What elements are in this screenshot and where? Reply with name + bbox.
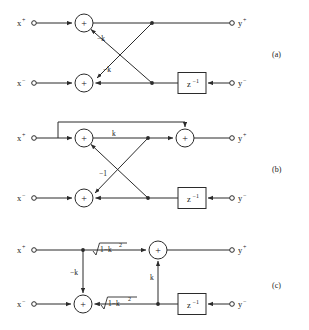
label-y-plus-sup-c: + xyxy=(243,244,247,250)
delay-block-c-superscript: −1 xyxy=(193,299,199,305)
adder-top-right-b-symbol: + xyxy=(182,133,188,144)
adder-bottom-a-symbol: + xyxy=(81,78,87,89)
label-y-minus-sup-c: − xyxy=(243,298,247,304)
panel-a: + + −k −k z −1 x + xyxy=(17,14,281,94)
diagram-canvas: + + −k −k z −1 x + xyxy=(0,0,309,330)
adder-bottom-c-symbol: + xyxy=(80,299,86,310)
coef-lower-cross-a: −k xyxy=(103,65,111,74)
coef-bottom-sqrt-c-exponent: 2 xyxy=(128,296,131,302)
terminal-y-minus-c[interactable] xyxy=(230,302,235,307)
panel-label-a: (a) xyxy=(272,50,281,59)
delay-block-a-label: z xyxy=(187,79,191,89)
label-x-minus-sup-a: − xyxy=(22,77,26,83)
wire-cross-down-b xyxy=(95,138,148,193)
terminal-y-plus-b[interactable] xyxy=(230,136,235,141)
terminal-x-plus-c[interactable] xyxy=(32,248,37,253)
adder-bottom-b-symbol: + xyxy=(81,193,87,204)
terminal-x-minus-b[interactable] xyxy=(32,196,37,201)
adder-top-c-symbol: + xyxy=(155,245,161,256)
label-y-minus-sup-a: − xyxy=(243,77,247,83)
terminal-y-plus-a[interactable] xyxy=(230,21,235,26)
label-x-plus-sup-a: + xyxy=(22,17,26,23)
label-x-plus-sup-c: + xyxy=(22,244,26,250)
terminal-x-minus-a[interactable] xyxy=(32,81,37,86)
delay-block-b-superscript: −1 xyxy=(193,193,199,199)
terminal-y-plus-c[interactable] xyxy=(230,248,235,253)
coef-top-sqrt-c-radicand: 1−k xyxy=(100,245,112,254)
delay-block-c-label: z xyxy=(187,300,191,310)
coef-upper-cross-a: −k xyxy=(97,34,105,43)
label-x-minus-sup-b: − xyxy=(22,192,26,198)
coef-bottom-sqrt-c-radicand: 1−k xyxy=(108,299,120,308)
coef-top-sqrt-c-exponent: 2 xyxy=(119,242,122,248)
terminal-y-minus-b[interactable] xyxy=(230,196,235,201)
coef-top-sqrt-c: 1−k 2 xyxy=(93,242,127,255)
adder-top-left-b-symbol: + xyxy=(81,133,87,144)
label-x-minus-sup-c: − xyxy=(22,298,26,304)
label-y-plus-sup-b: + xyxy=(243,132,247,138)
coef-bottom-sqrt-c: 1−k 2 xyxy=(101,296,137,309)
signal-flow-figure: + + −k −k z −1 x + xyxy=(0,0,309,330)
label-x-plus-sup-b: + xyxy=(22,132,26,138)
terminal-x-plus-a[interactable] xyxy=(32,21,37,26)
adder-top-a-symbol: + xyxy=(81,18,87,29)
label-y-minus-sup-b: − xyxy=(243,192,247,198)
coef-up-branch-c: k xyxy=(150,273,154,282)
delay-block-b-label: z xyxy=(187,194,191,204)
coef-down-branch-c: −k xyxy=(70,268,78,277)
panel-label-c: (c) xyxy=(272,281,281,290)
terminal-y-minus-a[interactable] xyxy=(230,81,235,86)
terminal-x-plus-b[interactable] xyxy=(32,136,37,141)
panel-b: + + + k −1 z −1 x xyxy=(17,122,282,209)
delay-block-a-superscript: −1 xyxy=(193,78,199,84)
terminal-x-minus-c[interactable] xyxy=(32,302,37,307)
coef-feedback-b: −1 xyxy=(99,169,107,178)
coef-forward-b: k xyxy=(112,129,116,138)
panel-label-b: (b) xyxy=(272,165,282,174)
panel-c: 1−k 2 + −k + 1−k 2 xyxy=(17,241,281,315)
label-y-plus-sup-a: + xyxy=(243,17,247,23)
